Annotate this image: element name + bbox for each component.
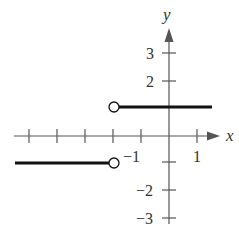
- x-axis-label: x: [225, 126, 234, 145]
- y-tick-label-neg2: −2: [136, 182, 153, 199]
- y-axis-arrow-icon: [165, 28, 174, 42]
- y-tick-label-3: 3: [146, 45, 154, 62]
- step-function-graph: y x 3 2 −2 −3 −1 1: [0, 0, 239, 226]
- open-circle-lower: [109, 158, 119, 168]
- x-tick-label-neg1: −1: [123, 148, 140, 165]
- y-tick-label-neg3: −3: [136, 210, 153, 226]
- open-circle-upper: [109, 102, 119, 112]
- y-tick-label-2: 2: [146, 73, 154, 90]
- x-axis-arrow-icon: [207, 132, 220, 141]
- x-tick-label-1: 1: [193, 148, 201, 165]
- y-axis-label: y: [161, 5, 171, 24]
